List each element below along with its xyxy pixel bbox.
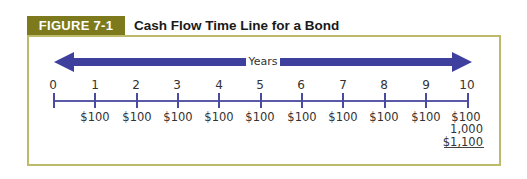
period-label: 9: [422, 78, 430, 92]
period-label: 4: [215, 78, 223, 92]
tick: [384, 93, 386, 108]
tick: [218, 93, 220, 108]
cash-flow: $100: [411, 110, 440, 124]
period-label: 0: [49, 78, 57, 92]
tick: [301, 93, 303, 108]
period-label: 8: [380, 78, 388, 92]
cash-flow: $100: [369, 110, 398, 124]
tick: [467, 93, 469, 108]
period-label: 5: [256, 78, 264, 92]
tick: [342, 93, 344, 108]
years-label: Years: [246, 55, 280, 69]
tick: [136, 93, 138, 108]
tick: [177, 93, 179, 108]
period-label: 10: [459, 78, 474, 92]
tick: [94, 93, 96, 108]
cash-flow: $100: [245, 110, 274, 124]
figure-label: FIGURE 7-1: [27, 16, 125, 35]
period-label: 7: [339, 78, 347, 92]
cash-flow: $100: [122, 110, 151, 124]
cash-flow: $100: [163, 110, 192, 124]
principal-repayment: 1,000: [450, 122, 483, 136]
cash-flow: $100: [287, 110, 316, 124]
period-label: 6: [297, 78, 305, 92]
tick: [425, 93, 427, 108]
final-total: $1,100: [443, 135, 483, 149]
period-label: 1: [91, 78, 99, 92]
cash-flow: $100: [80, 110, 109, 124]
cash-flow: $100: [328, 110, 357, 124]
cash-flow: $100: [204, 110, 233, 124]
period-label: 2: [132, 78, 140, 92]
period-label: 3: [173, 78, 181, 92]
tick: [53, 93, 55, 108]
tick: [260, 93, 262, 108]
figure-title: Cash Flow Time Line for a Bond: [134, 16, 339, 35]
